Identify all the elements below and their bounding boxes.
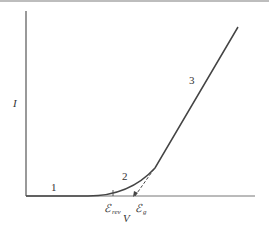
region-label-2: 2: [122, 171, 128, 182]
e-g-subscript: g: [143, 208, 147, 216]
iv-curve: [26, 27, 238, 196]
e-rev-label: ℰrev: [104, 203, 121, 216]
e-g-symbol: ℰ: [135, 202, 142, 214]
e-rev-subscript: rev: [112, 208, 121, 216]
e-rev-symbol: ℰ: [104, 202, 111, 214]
e-g-label: ℰg: [135, 203, 147, 216]
x-axis-label: V: [123, 213, 130, 224]
region-label-3: 3: [189, 75, 195, 86]
region-label-1: 1: [51, 182, 57, 193]
iv-curve-diagram: [0, 0, 269, 234]
y-axis-label: I: [13, 98, 17, 109]
